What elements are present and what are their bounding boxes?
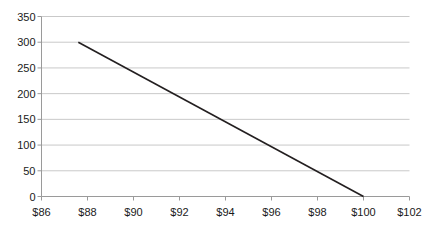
chart-canvas <box>0 0 429 229</box>
y-axis-tick-label: 200 <box>2 88 36 100</box>
y-axis-ticks <box>38 17 42 197</box>
y-axis-tick-label: 50 <box>2 165 36 177</box>
x-axis-tick-label: $102 <box>387 206 429 218</box>
x-axis-tick-label: $100 <box>341 206 387 218</box>
y-axis-tick-label: 350 <box>2 11 36 23</box>
gridlines <box>42 17 410 171</box>
x-axis-tick-label: $86 <box>19 206 65 218</box>
x-axis-tick-label: $96 <box>249 206 295 218</box>
x-axis-ticks <box>42 197 410 201</box>
y-axis-tick-label: 0 <box>2 191 36 203</box>
y-axis-tick-label: 100 <box>2 139 36 151</box>
y-axis-tick-label: 250 <box>2 62 36 74</box>
y-axis-tick-label: 150 <box>2 113 36 125</box>
x-axis-tick-label: $88 <box>65 206 111 218</box>
x-axis-tick-label: $90 <box>111 206 157 218</box>
y-axis-tick-label: 300 <box>2 36 36 48</box>
x-axis-tick-label: $98 <box>295 206 341 218</box>
x-axis-tick-label: $94 <box>203 206 249 218</box>
x-axis-tick-label: $92 <box>157 206 203 218</box>
line-chart: 050100150200250300350 $86$88$90$92$94$96… <box>0 0 429 229</box>
